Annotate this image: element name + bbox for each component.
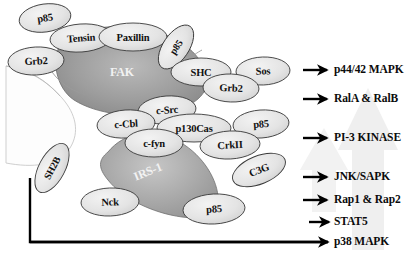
node-ellipse-c-fyn[interactable] bbox=[125, 129, 183, 157]
output-jnk-sapk[interactable]: JNK/SAPK bbox=[334, 170, 390, 182]
node-ellipse-grb2-left[interactable] bbox=[7, 46, 64, 77]
output-rap1-rap2-label: Rap1 & Rap2 bbox=[334, 193, 401, 205]
signaling-pathway-figure: p85TensinPaxillinp85Grb2SHCSosGrb2c-Srcc… bbox=[0, 0, 412, 258]
output-rala-ralb-label: RalA & RalB bbox=[334, 92, 398, 104]
output-pi3-kinase[interactable]: PI-3 KINASE bbox=[334, 131, 401, 143]
node-ellipse-paxillin[interactable] bbox=[99, 23, 167, 51]
output-jnk-sapk-label: JNK/SAPK bbox=[334, 170, 390, 182]
output-p44-42-mapk-label: p44/42 MAPK bbox=[334, 63, 404, 75]
output-p38-mapk[interactable]: p38 MAPK bbox=[334, 235, 389, 247]
output-p38-mapk-label: p38 MAPK bbox=[334, 235, 389, 247]
output-stat5-label: STAT5 bbox=[334, 215, 368, 227]
output-stat5[interactable]: STAT5 bbox=[334, 215, 368, 227]
output-p44-42-mapk[interactable]: p44/42 MAPK bbox=[334, 63, 404, 75]
node-ellipse-nck[interactable] bbox=[81, 187, 140, 217]
output-pi3-kinase-label: PI-3 KINASE bbox=[334, 131, 401, 143]
output-rap1-rap2[interactable]: Rap1 & Rap2 bbox=[334, 193, 401, 205]
output-rala-ralb[interactable]: RalA & RalB bbox=[334, 92, 398, 104]
